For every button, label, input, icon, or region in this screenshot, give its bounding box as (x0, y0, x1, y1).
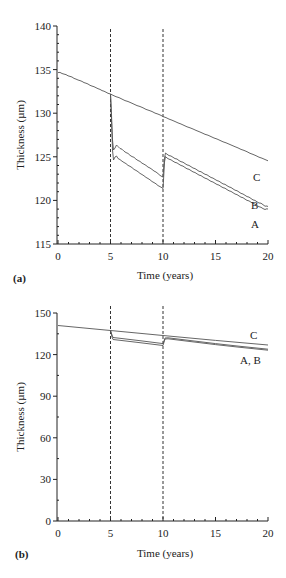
panel-a-label: (a) (13, 272, 26, 285)
panel-b-ytick-label: 120 (35, 349, 52, 361)
panel-b-y-ticks (53, 313, 59, 521)
panel-a-series-a (111, 94, 269, 210)
panel-b-series-b (111, 331, 269, 350)
panel-b-series-label-ab: A, B (240, 354, 261, 366)
panel-b-xtick-label: 5 (108, 527, 114, 539)
panel-a-xtick-label: 15 (210, 250, 222, 262)
panel-b-series-label-c: C (250, 329, 257, 341)
panel-b-xtick-label: 10 (158, 527, 170, 539)
panel-b-ytick-label: 90 (40, 390, 52, 402)
panel-b-xtick-label: 20 (263, 527, 275, 539)
panel-a-x-axis-title: Time (years) (137, 269, 193, 282)
panel-b-ytick-label: 150 (35, 307, 52, 319)
panel-a-ytick-label: 140 (35, 20, 52, 32)
panel-a-y-ticks (53, 26, 59, 244)
panel-b: 150 120 90 60 30 0 0 5 10 15 20 Time (ye… (14, 306, 274, 561)
panel-a-ytick-label: 120 (35, 194, 52, 206)
panel-a-xtick-label: 5 (108, 250, 114, 262)
panel-b-ytick-label: 30 (40, 473, 52, 485)
panel-a-xtick-label: 20 (263, 250, 275, 262)
panel-b-x-axis-title: Time (years) (137, 547, 193, 560)
panel-b-xtick-label: 15 (210, 527, 222, 539)
panel-a-xtick-label: 0 (55, 250, 61, 262)
panel-b-ytick-label: 0 (46, 515, 52, 527)
panel-a-y-axis-title: Thickness (µm) (14, 100, 27, 170)
figure: 140 135 130 125 120 115 0 5 10 15 20 Tim… (0, 0, 286, 578)
panel-a-ytick-label: 115 (35, 238, 52, 250)
panel-a-ytick-label: 130 (35, 107, 52, 119)
panel-a-ytick-label: 125 (35, 151, 52, 163)
panel-b-ytick-label: 60 (40, 432, 52, 444)
panel-a-series-label-c: C (253, 171, 260, 183)
panel-a-series-label-b: B (251, 199, 258, 211)
panel-b-xtick-label: 0 (55, 527, 61, 539)
panel-b-label: (b) (15, 548, 29, 561)
panel-a: 140 135 130 125 120 115 0 5 10 15 20 Tim… (13, 20, 274, 285)
panel-a-ytick-label: 135 (35, 64, 52, 76)
panel-a-series-label-a: A (251, 218, 259, 230)
panel-a-xtick-label: 10 (158, 250, 170, 262)
panel-b-y-axis-title: Thickness (µm) (14, 382, 27, 452)
